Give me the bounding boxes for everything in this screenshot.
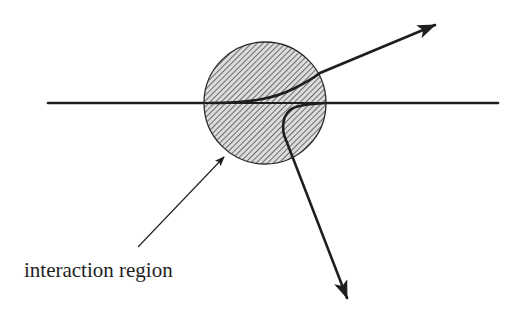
interaction-region-label: interaction region: [24, 260, 173, 281]
pointer-arrow: [138, 157, 224, 247]
